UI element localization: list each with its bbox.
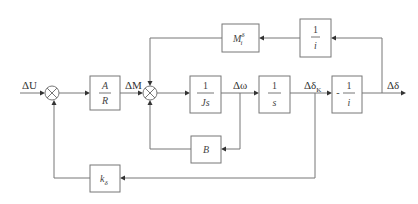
svg-text:-: - (336, 87, 339, 98)
angle-gain-k-delta-block: kδ (90, 165, 120, 192)
svg-text:Js: Js (201, 97, 209, 108)
summing-junction-2 (143, 86, 157, 100)
svg-text:1: 1 (203, 80, 208, 91)
signal-delta-delta-output-label: Δδ (387, 79, 399, 91)
gain-a-over-r-block: A R (90, 76, 120, 110)
svg-text:B: B (203, 144, 209, 155)
signal-delta-u-label: ΔU (22, 79, 37, 91)
svg-text:1: 1 (272, 80, 277, 91)
negative-ratio-1-over-i-block: - 1 i (332, 76, 362, 113)
input-signal: ΔU (20, 79, 45, 96)
svg-text:1: 1 (347, 80, 352, 91)
damping-b-block: B (191, 136, 221, 163)
ratio-1-over-i-feedback-block: 1 i (300, 19, 331, 57)
signal-delta-omega-label: Δω (233, 79, 247, 91)
svg-text:s: s (273, 97, 277, 108)
torque-coefficient-feedback-block: Mδi (222, 24, 259, 52)
summing-junction-1 (45, 86, 59, 100)
svg-text:R: R (101, 95, 108, 106)
inertia-1-over-js-block: 1 Js (190, 76, 221, 113)
integrator-1-over-s-block: 1 s (259, 76, 290, 113)
svg-text:i: i (348, 97, 351, 108)
signal-delta-delta-k-label: ΔδK (304, 79, 321, 94)
svg-text:i: i (314, 40, 317, 51)
signal-delta-m-label: ΔM (125, 79, 142, 91)
svg-text:1: 1 (313, 24, 318, 35)
block-diagram: ΔU A R ΔM 1 Js Δω 1 s (0, 0, 418, 204)
svg-text:A: A (101, 80, 109, 91)
